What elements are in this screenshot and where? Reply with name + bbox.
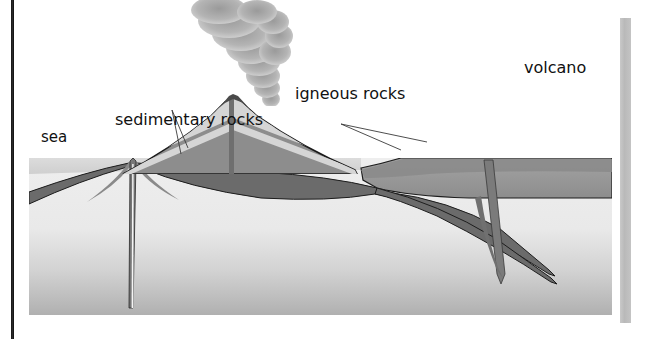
label-sedimentary-rocks: sedimentary rocks <box>115 110 263 129</box>
page-binding-line <box>11 0 14 339</box>
leader-igneous-2 <box>341 124 427 142</box>
label-igneous-rocks: igneous rocks <box>295 84 405 103</box>
geology-cross-section-figure <box>29 158 612 315</box>
label-volcano: volcano <box>524 58 586 77</box>
smoke-cloud <box>191 0 293 106</box>
margin-grey-bar <box>620 18 631 323</box>
label-sea: sea <box>41 128 67 146</box>
leader-igneous-1 <box>341 124 401 150</box>
page: sea sedimentary rocks igneous rocks volc… <box>0 0 649 339</box>
cross-section-svg <box>29 158 612 315</box>
